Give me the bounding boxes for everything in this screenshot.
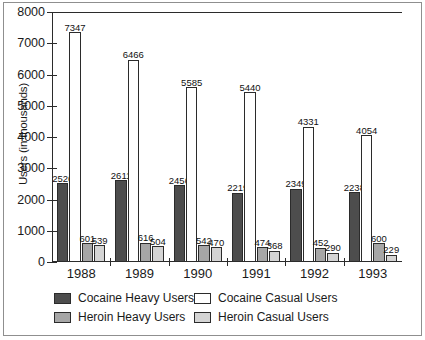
legend-swatch (194, 293, 211, 304)
bar-value-label: 5585 (181, 78, 202, 88)
bar: 601 (82, 243, 94, 262)
x-axis-label: 1993 (344, 266, 402, 281)
bar-value-label: 6466 (123, 50, 144, 60)
legend-item[interactable]: Cocaine Casual Users (194, 291, 337, 305)
y-axis-tick-label: 8000 (0, 6, 45, 19)
x-axis-label: 1991 (227, 266, 285, 281)
bar-value-label: 504 (150, 237, 166, 247)
y-axis-tick-label: 6000 (0, 69, 45, 82)
bar-value-label: 470 (208, 238, 224, 248)
chart-figure: Users (in thousands) 0100020003000400050… (0, 0, 425, 340)
bar-value-label: 4331 (298, 117, 319, 127)
legend-label: Heroin Casual Users (218, 310, 329, 324)
x-axis-separator-tick (110, 258, 111, 266)
legend-label: Cocaine Casual Users (218, 291, 337, 305)
bar: 7347 (69, 32, 81, 262)
legend-row: Cocaine Heavy UsersCocaine Casual Users (52, 291, 392, 310)
x-axis-label: 1990 (169, 266, 227, 281)
bar-value-label: 5440 (239, 83, 260, 93)
bar-group: 25267347601539 (52, 12, 110, 262)
x-axis-separator-tick (344, 258, 345, 266)
bar: 2349 (290, 189, 302, 262)
bar: 539 (94, 245, 106, 262)
bar: 2526 (57, 183, 69, 262)
bar-value-label: 229 (383, 245, 399, 255)
bar: 2456 (174, 185, 186, 262)
legend-swatch (194, 312, 211, 323)
legend-item[interactable]: Heroin Casual Users (194, 310, 329, 324)
x-axis-label: 1989 (110, 266, 168, 281)
y-axis-tick-label: 3000 (0, 162, 45, 175)
bar: 290 (327, 253, 339, 262)
bar-value-label: 4054 (356, 126, 377, 136)
legend-swatch (54, 293, 71, 304)
bar-group: 22195440474368 (227, 12, 285, 262)
legend-item[interactable]: Cocaine Heavy Users (54, 291, 194, 305)
bar: 504 (152, 246, 164, 262)
y-axis-tick-label: 5000 (0, 100, 45, 113)
bar-group: 23494331452290 (285, 12, 343, 262)
chart-legend: Cocaine Heavy UsersCocaine Casual UsersH… (52, 291, 392, 329)
legend-label: Cocaine Heavy Users (78, 291, 194, 305)
y-axis-tick-label: 2000 (0, 194, 45, 207)
y-axis-tick-label: 7000 (0, 37, 45, 50)
legend-swatch (54, 312, 71, 323)
bar: 470 (211, 247, 223, 262)
bar-value-label: 7347 (64, 23, 85, 33)
bar: 2238 (349, 192, 361, 262)
y-axis-tick-label: 1000 (0, 225, 45, 238)
y-axis-tick-label: 4000 (0, 131, 45, 144)
plot-area: 010002000300040005000600070008000 252673… (52, 12, 402, 262)
x-axis-separator-tick (285, 258, 286, 266)
bar-value-label: 290 (325, 243, 341, 253)
bar-group: 24565585542470 (169, 12, 227, 262)
legend-item[interactable]: Heroin Heavy Users (54, 310, 185, 324)
bar-group: 22384054600229 (344, 12, 402, 262)
bar-value-label: 600 (371, 234, 387, 244)
legend-row: Heroin Heavy UsersHeroin Casual Users (52, 310, 392, 329)
bar-value-label: 368 (267, 241, 283, 251)
x-axis-separator-tick (169, 258, 170, 266)
bar-group: 26116466616504 (110, 12, 168, 262)
y-axis-tick (47, 262, 57, 263)
x-axis-separator-tick (227, 258, 228, 266)
x-axis-label: 1988 (52, 266, 110, 281)
bar: 229 (386, 255, 398, 262)
x-axis-label: 1992 (285, 266, 343, 281)
y-axis-tick-label: 0 (0, 256, 45, 269)
bar: 2611 (115, 180, 127, 262)
bar: 2219 (232, 193, 244, 262)
bar-value-label: 539 (92, 236, 108, 246)
legend-label: Heroin Heavy Users (78, 310, 185, 324)
bar: 368 (269, 251, 281, 263)
